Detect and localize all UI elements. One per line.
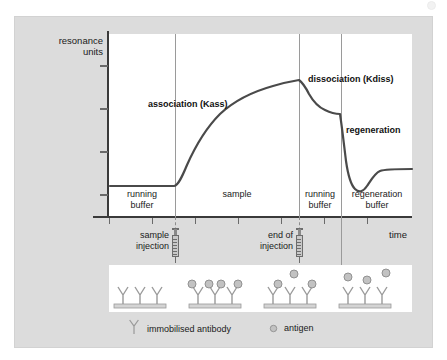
sensorgram-chart: resonance units time association (Kass) …	[15, 17, 434, 349]
figure-legend: immobilised antibody antigen	[109, 319, 412, 343]
connector-line-regeneration	[341, 217, 342, 265]
annotation-association: association (Kass)	[148, 99, 228, 109]
cartoon-panel-dissociation	[259, 265, 334, 312]
phase-label-sample: sample	[177, 189, 297, 200]
plot-area	[109, 34, 412, 202]
syringe-icon-sample	[172, 235, 179, 257]
x-axis-label: time	[355, 229, 407, 240]
phase-divider-end-injection	[299, 34, 300, 217]
antigen-circle-icon	[269, 319, 278, 337]
y-axis-tick	[100, 65, 108, 67]
phase-label-running-buffer-1: running buffer	[111, 189, 173, 210]
legend-label-antibody: immobilised antibody	[147, 324, 231, 334]
phase-label-running-buffer-2: running buffer	[301, 189, 339, 210]
legend-item-antigen: antigen	[269, 319, 314, 337]
x-axis-tick	[238, 218, 239, 224]
y-axis-tick	[100, 151, 108, 153]
y-axis-tick	[100, 194, 108, 196]
injection-label-end: end of injection	[225, 230, 293, 251]
syringe-icon-end	[296, 235, 303, 257]
x-axis-tick	[195, 218, 196, 224]
cartoon-panel-baseline	[109, 265, 184, 312]
top-white-strip	[0, 0, 447, 16]
x-axis-tick	[109, 218, 110, 224]
molecular-cartoon-panel	[109, 265, 412, 312]
y-axis-label: resonance units	[27, 35, 103, 57]
phase-divider-sample-injection	[175, 34, 176, 217]
y-axis-tick	[100, 108, 108, 110]
legend-label-antigen: antigen	[284, 323, 314, 333]
x-axis-tick	[324, 218, 325, 224]
y-axis	[107, 31, 109, 217]
figure-root: resonance units time association (Kass) …	[0, 0, 447, 360]
phase-divider-regeneration	[341, 34, 342, 217]
figure-panel: resonance units time association (Kass) …	[14, 16, 433, 348]
cartoon-panel-saturated	[184, 265, 259, 312]
legend-item-antibody: immobilised antibody	[127, 319, 231, 339]
circle-marker-icon	[427, 1, 436, 10]
annotation-regeneration: regeneration	[346, 125, 401, 135]
x-axis-tick	[367, 218, 368, 224]
injection-label-sample: sample injection	[103, 230, 169, 251]
annotation-dissociation: dissociation (Kdiss)	[308, 74, 394, 84]
x-axis-tick	[152, 218, 153, 224]
x-axis-tick	[281, 218, 282, 224]
cartoon-panel-regenerated	[334, 265, 409, 312]
antibody-y-icon	[127, 319, 141, 339]
phase-label-regeneration-buffer: regeneration buffer	[343, 189, 411, 210]
x-axis	[93, 216, 412, 218]
